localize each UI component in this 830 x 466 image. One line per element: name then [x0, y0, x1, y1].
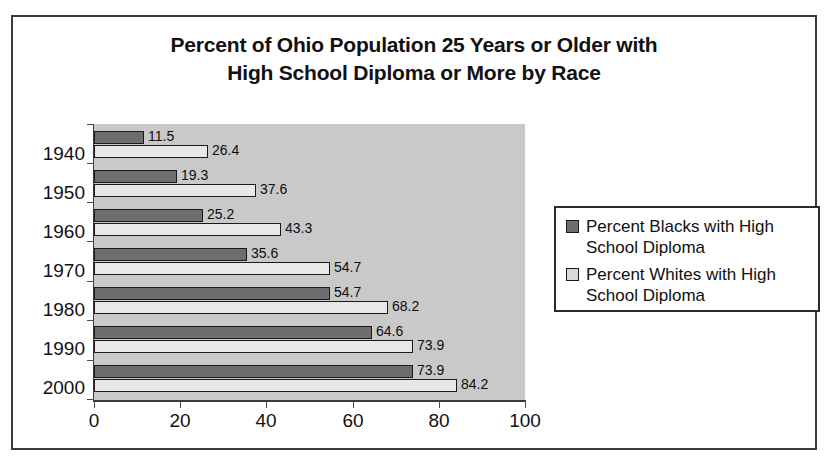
chart-title: Percent of Ohio Population 25 Years or O… — [13, 31, 815, 87]
legend-entry-whites[interactable]: Percent Whites with HighSchool Diploma — [566, 264, 810, 306]
y-tick-label-1940: 1940 — [21, 143, 85, 165]
bar-blacks-1940[interactable] — [94, 131, 144, 144]
x-tick-mark-40 — [266, 401, 267, 408]
y-tick-label-2000: 2000 — [21, 377, 85, 399]
x-tick-label-40: 40 — [236, 410, 296, 432]
y-tick-label-1990: 1990 — [21, 338, 85, 360]
x-tick-label-100: 100 — [495, 410, 555, 432]
bar-value-whites-1960: 43.3 — [285, 222, 312, 235]
y-tick-mark-0 — [87, 124, 94, 125]
bar-value-blacks-1960: 25.2 — [207, 208, 234, 221]
chart-legend: Percent Blacks with HighSchool Diploma P… — [554, 206, 820, 312]
x-tick-mark-80 — [439, 401, 440, 408]
bar-whites-1990[interactable] — [94, 340, 413, 353]
y-tick-mark-3 — [87, 241, 94, 242]
y-tick-mark-6 — [87, 360, 94, 361]
x-axis-line — [93, 400, 526, 402]
y-tick-mark-4 — [87, 281, 94, 282]
legend-label-blacks-line2: School Diploma — [586, 238, 705, 257]
bar-value-whites-2000: 84.2 — [461, 378, 488, 391]
chart-title-line-1: Percent of Ohio Population 25 Years or O… — [13, 31, 815, 59]
bar-blacks-1950[interactable] — [94, 170, 177, 183]
y-tick-label-1950: 1950 — [21, 182, 85, 204]
bar-whites-1950[interactable] — [94, 184, 256, 197]
legend-label-whites-line2: School Diploma — [586, 286, 705, 305]
chart-title-line-2: High School Diploma or More by Race — [13, 59, 815, 87]
x-tick-mark-60 — [353, 401, 354, 408]
legend-entry-blacks[interactable]: Percent Blacks with HighSchool Diploma — [566, 216, 810, 258]
legend-swatch-blacks-icon — [566, 220, 579, 233]
y-tick-mark-5 — [87, 320, 94, 321]
bar-whites-1970[interactable] — [94, 262, 330, 275]
bar-value-blacks-1950: 19.3 — [181, 169, 208, 182]
bar-whites-2000[interactable] — [94, 379, 457, 392]
bar-whites-1980[interactable] — [94, 301, 388, 314]
bar-whites-1940[interactable] — [94, 145, 208, 158]
bar-value-blacks-1970: 35.6 — [251, 247, 278, 260]
bar-value-blacks-1990: 64.6 — [376, 325, 403, 338]
legend-label-whites-line1: Percent Whites with High — [586, 265, 776, 284]
legend-label-blacks-line1: Percent Blacks with High — [586, 217, 774, 236]
bar-blacks-1970[interactable] — [94, 248, 247, 261]
bar-blacks-1960[interactable] — [94, 209, 203, 222]
y-tick-mark-1 — [87, 163, 94, 164]
y-tick-label-1960: 1960 — [21, 221, 85, 243]
legend-label-blacks: Percent Blacks with HighSchool Diploma — [586, 216, 774, 258]
x-tick-mark-0 — [94, 401, 95, 408]
bar-blacks-1980[interactable] — [94, 287, 330, 300]
bar-value-blacks-1980: 54.7 — [334, 286, 361, 299]
bar-value-blacks-2000: 73.9 — [417, 364, 444, 377]
x-tick-mark-20 — [180, 401, 181, 408]
chart-figure-frame: Percent of Ohio Population 25 Years or O… — [11, 15, 817, 450]
y-tick-label-1980: 1980 — [21, 299, 85, 321]
x-tick-label-0: 0 — [64, 410, 124, 432]
legend-label-whites: Percent Whites with HighSchool Diploma — [586, 264, 776, 306]
bar-value-whites-1980: 68.2 — [392, 300, 419, 313]
bar-blacks-1990[interactable] — [94, 326, 372, 339]
bar-value-whites-1940: 26.4 — [212, 144, 239, 157]
x-tick-label-20: 20 — [150, 410, 210, 432]
plot-area: 11.5 26.4 19.3 37.6 25.2 43.3 35.6 54.7 … — [94, 124, 525, 400]
y-tick-label-1970: 1970 — [21, 260, 85, 282]
bar-value-whites-1970: 54.7 — [334, 261, 361, 274]
bar-blacks-2000[interactable] — [94, 365, 413, 378]
bar-value-blacks-1940: 11.5 — [148, 130, 174, 143]
x-tick-label-80: 80 — [409, 410, 469, 432]
legend-swatch-whites-icon — [566, 268, 579, 281]
y-tick-mark-2 — [87, 202, 94, 203]
bar-whites-1960[interactable] — [94, 223, 281, 236]
x-tick-label-60: 60 — [323, 410, 383, 432]
x-tick-mark-100 — [525, 401, 526, 408]
bar-value-whites-1950: 37.6 — [260, 183, 287, 196]
bar-value-whites-1990: 73.9 — [417, 339, 444, 352]
